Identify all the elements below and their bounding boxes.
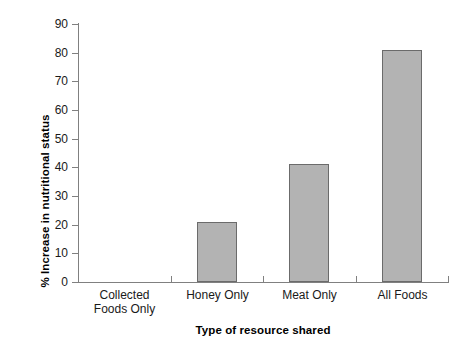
- x-axis-category-label: Meat Only: [263, 288, 356, 302]
- y-axis-tick: [72, 81, 78, 82]
- y-axis-tick-label: 70: [0, 75, 68, 87]
- y-axis-tick-label-text: 70: [6, 75, 68, 87]
- y-axis-tick: [72, 196, 78, 197]
- y-axis-tick-label-text: 50: [6, 133, 68, 145]
- y-axis-tick-label-text: 20: [6, 219, 68, 231]
- y-axis-tick-label: 40: [0, 161, 68, 173]
- y-axis-line: [78, 23, 79, 283]
- bar-chart: % Increase in nutritional status 0102030…: [0, 0, 476, 354]
- y-axis-tick: [72, 139, 78, 140]
- x-axis-category-label: All Foods: [356, 288, 449, 302]
- bar: [197, 222, 237, 282]
- y-axis-tick-label-text: 60: [6, 104, 68, 116]
- y-axis-tick-label-text: 30: [6, 190, 68, 202]
- y-axis-tick-label: 20: [0, 219, 68, 231]
- y-axis-tick: [72, 24, 78, 25]
- x-axis-category-label: Honey Only: [171, 288, 264, 302]
- y-axis-tick: [72, 53, 78, 54]
- y-axis-tick-label-text: 90: [6, 18, 68, 30]
- x-axis-tick: [171, 276, 172, 283]
- y-axis-tick-label: 10: [0, 247, 68, 259]
- y-axis-tick-label: 60: [0, 104, 68, 116]
- y-axis-tick: [72, 282, 78, 283]
- y-axis-tick-label-text: 80: [6, 47, 68, 59]
- bar: [382, 50, 422, 282]
- y-axis-tick-label-text: 0: [6, 276, 68, 288]
- x-axis-title: Type of resource shared: [78, 324, 448, 336]
- y-axis-tick: [72, 110, 78, 111]
- y-axis-tick-label: 90: [0, 18, 68, 30]
- y-axis-tick-label: 50: [0, 133, 68, 145]
- bar: [289, 164, 329, 282]
- y-axis-tick-label: 0: [0, 276, 68, 288]
- x-axis-category-label: Collected Foods Only: [78, 288, 171, 316]
- x-axis-tick: [263, 276, 264, 283]
- x-axis-end-tick: [448, 276, 449, 283]
- y-axis-tick-label: 30: [0, 190, 68, 202]
- y-axis-tick-label-text: 40: [6, 161, 68, 173]
- y-axis-tick: [72, 225, 78, 226]
- y-axis-tick-label: 80: [0, 47, 68, 59]
- x-axis-tick: [356, 276, 357, 283]
- y-axis-tick: [72, 253, 78, 254]
- y-axis-tick: [72, 167, 78, 168]
- y-axis-tick-label-text: 10: [6, 247, 68, 259]
